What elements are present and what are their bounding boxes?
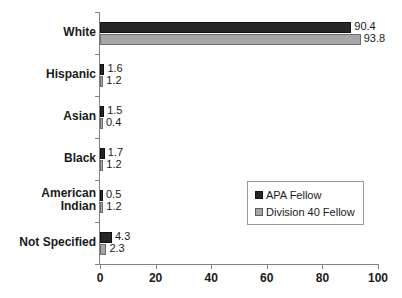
bar-chart: 020406080100 WhiteHispanicAsianBlackAmer…	[0, 0, 402, 298]
chart-legend: APA Fellow Division 40 Fellow	[247, 181, 364, 225]
bar-value-label: 1.7	[108, 147, 123, 158]
bar-not-specified-division-40-fellow	[100, 244, 106, 255]
x-axis-tick-label: 60	[247, 271, 287, 285]
bar-value-label: 4.3	[115, 231, 130, 242]
category-label-black: Black	[0, 152, 96, 165]
bar-value-label: 93.8	[364, 33, 385, 44]
x-axis-tick-label: 20	[136, 271, 176, 285]
bar-asian-division-40-fellow	[100, 118, 103, 129]
bar-hispanic-apa-fellow	[100, 64, 104, 75]
category-label-american-indian: AmericanIndian	[0, 187, 96, 213]
bar-black-apa-fellow	[100, 148, 105, 159]
bar-value-label: 1.2	[106, 201, 121, 212]
bar-value-label: 0.5	[106, 189, 121, 200]
x-axis-tick	[156, 265, 157, 269]
category-label-hispanic: Hispanic	[0, 68, 96, 81]
bar-value-label: 1.2	[106, 159, 121, 170]
legend-swatch-icon-apa-fellow	[255, 191, 263, 199]
x-axis-tick	[322, 265, 323, 269]
bar-value-label: 1.5	[107, 105, 122, 116]
legend-label-division-40-fellow: Division 40 Fellow	[266, 206, 355, 218]
legend-item-apa-fellow: APA Fellow	[255, 189, 321, 201]
y-axis-tick	[95, 138, 99, 139]
bar-value-label: 1.2	[106, 75, 121, 86]
y-axis-tick	[95, 96, 99, 97]
bar-white-division-40-fellow	[100, 34, 361, 45]
y-axis-tick	[95, 264, 99, 265]
bar-value-label: 90.4	[354, 21, 375, 32]
x-axis-tick	[100, 265, 101, 269]
category-label-white: White	[0, 26, 96, 39]
bar-value-label: 0.4	[106, 117, 121, 128]
category-label-asian: Asian	[0, 110, 96, 123]
bar-not-specified-apa-fellow	[100, 232, 112, 243]
x-axis-tick-label: 40	[191, 271, 231, 285]
y-axis-line	[99, 12, 100, 265]
legend-swatch-icon-division-40-fellow	[255, 208, 263, 216]
y-axis-tick	[95, 54, 99, 55]
bar-american-indian-division-40-fellow	[100, 202, 103, 213]
bar-american-indian-apa-fellow	[100, 190, 103, 201]
bar-black-division-40-fellow	[100, 160, 103, 171]
x-axis-tick	[267, 265, 268, 269]
bar-asian-apa-fellow	[100, 106, 104, 117]
legend-item-division-40-fellow: Division 40 Fellow	[255, 206, 355, 218]
x-axis-tick	[378, 265, 379, 269]
bar-value-label: 1.6	[107, 63, 122, 74]
bar-white-apa-fellow	[100, 22, 351, 33]
y-axis-tick	[95, 180, 99, 181]
bar-value-label: 2.3	[109, 243, 124, 254]
y-axis-tick	[95, 12, 99, 13]
bar-hispanic-division-40-fellow	[100, 76, 103, 87]
category-label-not-specified: Not Specified	[0, 236, 96, 249]
x-axis-line	[99, 264, 379, 265]
x-axis-tick	[211, 265, 212, 269]
y-axis-tick	[95, 222, 99, 223]
x-axis-tick-label: 80	[302, 271, 342, 285]
x-axis-tick-label: 0	[80, 271, 120, 285]
x-axis-tick-label: 100	[358, 271, 398, 285]
legend-label-apa-fellow: APA Fellow	[266, 189, 321, 201]
